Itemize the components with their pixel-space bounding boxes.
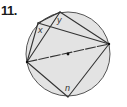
inscribed-angle-diagram: x y n [0,0,127,107]
vertex-right [108,43,110,45]
center-point [67,53,70,56]
vertex-left [26,61,28,63]
angle-label-x: x [37,25,43,35]
angle-label-y: y [56,15,62,25]
angle-label-n: n [65,83,70,93]
